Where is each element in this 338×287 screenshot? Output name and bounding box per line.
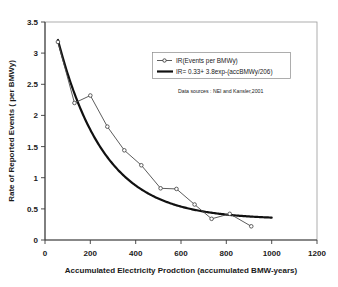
x-axis-tick-labels: 0 200 400 600 800 1000 1200	[43, 249, 327, 258]
x-tick-label: 0	[43, 249, 48, 258]
data-point-marker	[123, 149, 127, 153]
y-tick-label: 1	[34, 174, 39, 183]
y-tick-label: 0	[34, 236, 39, 245]
data-point-marker	[56, 40, 60, 44]
legend-circle-marker-icon	[163, 59, 166, 62]
y-tick-label: 0.5	[27, 205, 39, 214]
y-tick-label: 3.5	[27, 18, 39, 27]
y-tick-label: 3	[34, 49, 39, 58]
x-tick-label: 1200	[308, 249, 326, 258]
legend-label-observed: IR(Events per BMWy)	[176, 57, 238, 65]
chart-container: 0 0.5 1 1.5 2 2.5 3 3.5 0 200 400 600 80…	[0, 0, 338, 287]
y-tick-label: 2.5	[27, 80, 39, 89]
x-tick-label: 200	[84, 249, 98, 258]
y-axis-ticks	[41, 22, 45, 240]
data-point-marker	[228, 212, 232, 216]
x-tick-label: 800	[220, 249, 234, 258]
data-point-marker	[210, 217, 214, 221]
data-point-marker	[175, 187, 179, 191]
x-axis-title: Accumulated Electricity Prodction (accum…	[65, 266, 298, 275]
x-tick-label: 400	[129, 249, 143, 258]
data-point-marker	[89, 94, 93, 98]
data-sources-annotation: Data sources : NEI and Kansler,2001	[178, 88, 263, 94]
y-tick-label: 1.5	[27, 143, 39, 152]
y-tick-label: 2	[34, 111, 39, 120]
x-tick-label: 1000	[263, 249, 281, 258]
chart-svg: 0 0.5 1 1.5 2 2.5 3 3.5 0 200 400 600 80…	[0, 0, 338, 287]
y-axis-title: Rate of Reported Events ( per BMWy)	[7, 60, 16, 202]
x-tick-label: 600	[174, 249, 188, 258]
data-point-marker	[193, 203, 197, 207]
data-point-marker	[249, 225, 253, 229]
chart-legend[interactable]: IR(Events per BMWy) IR= 0.33+ 3.8exp-(ac…	[153, 53, 291, 79]
data-point-marker	[73, 101, 77, 105]
legend-label-model: IR= 0.33+ 3.8exp-(accBMWy/206)	[176, 68, 273, 76]
data-point-marker	[140, 163, 144, 167]
data-point-marker	[106, 125, 110, 129]
y-axis-tick-labels: 0 0.5 1 1.5 2 2.5 3 3.5	[27, 18, 39, 245]
x-axis-ticks	[45, 240, 317, 244]
data-point-marker	[159, 187, 163, 191]
